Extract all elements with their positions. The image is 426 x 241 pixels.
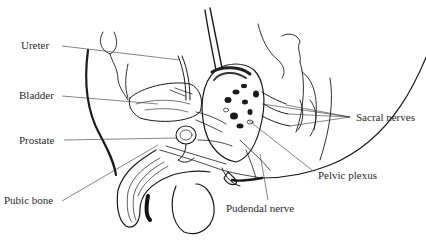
label-bladder: Bladder (19, 90, 54, 101)
label-ureter: Ureter (21, 40, 49, 51)
label-pubic-bone: Pubic bone (4, 195, 53, 206)
label-pudendal-nerve: Pudendal nerve (226, 203, 294, 214)
label-sacral-nerves: Sacral nerves (356, 112, 415, 123)
label-pelvic-plexus: Pelvic plexus (318, 170, 377, 181)
label-prostate: Prostate (19, 135, 54, 146)
leader-lines (62, 46, 350, 201)
anatomy-diagram: Ureter Bladder Prostate Pubic bone Sacra… (0, 0, 426, 241)
